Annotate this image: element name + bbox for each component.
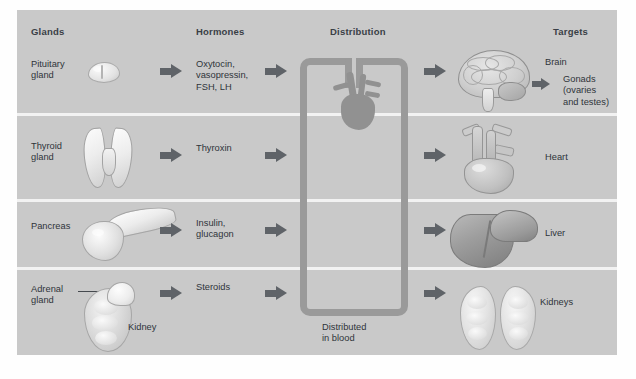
adrenal-gland-icon	[107, 282, 135, 306]
arrow-hormone-to-blood-2	[265, 148, 287, 162]
heart-icon-target	[456, 124, 522, 192]
arrow-blood-to-target-1	[424, 64, 446, 78]
column-header-glands: Glands	[31, 26, 64, 37]
arrow-blood-to-target-3	[424, 223, 446, 237]
column-header-distribution: Distribution	[330, 26, 386, 37]
arrow-gland-to-hormone-4	[160, 286, 182, 300]
column-header-hormones: Hormones	[196, 26, 245, 37]
hormone-label-thyroxin: Thyroxin	[196, 143, 232, 154]
target-label-brain: Brain	[545, 57, 567, 68]
hormone-label-pituitary: Oxytocin, vasopressin, FSH, LH	[196, 59, 248, 93]
gland-label-thyroid: Thyroid gland	[31, 141, 62, 164]
gland-label-adrenal: Adrenal gland	[31, 284, 63, 307]
target-label-gonads: Gonads (ovaries and testes)	[563, 74, 609, 108]
callout-label-kidney: Kidney	[128, 322, 156, 333]
kidney-icon-target-left	[460, 286, 496, 350]
hormone-label-insulin: Insulin, glucagon	[196, 218, 234, 241]
liver-icon	[450, 210, 536, 266]
arrow-blood-to-target-4	[424, 286, 446, 300]
target-label-kidneys: Kidneys	[540, 297, 573, 308]
gland-label-pituitary: Pituitary gland	[31, 59, 65, 82]
cerebellum-icon	[498, 82, 526, 101]
diagram-canvas: Glands Hormones Distribution Targets Dis…	[0, 0, 636, 379]
heart-icon-distribution	[338, 72, 378, 130]
gland-label-pancreas: Pancreas	[31, 221, 70, 232]
arrow-gland-to-hormone-3	[160, 223, 182, 237]
arrow-gland-to-hormone-2	[160, 148, 182, 162]
hormone-label-steroids: Steroids	[196, 282, 230, 293]
arrow-hormone-to-blood-4	[265, 286, 287, 300]
arrow-brain-to-gonads	[532, 78, 550, 90]
arrow-hormone-to-blood-3	[265, 223, 287, 237]
arrow-gland-to-hormone-1	[160, 64, 182, 78]
column-header-targets: Targets	[553, 26, 588, 37]
target-label-heart: Heart	[545, 152, 568, 163]
brainstem-icon	[482, 88, 494, 112]
thyroid-gland-icon	[84, 128, 132, 188]
arrow-hormone-to-blood-1	[265, 64, 287, 78]
pituitary-gland-icon	[88, 62, 120, 83]
distribution-caption: Distributed in blood	[322, 322, 366, 345]
target-label-liver: Liver	[545, 228, 565, 239]
arrow-blood-to-target-2	[424, 148, 446, 162]
